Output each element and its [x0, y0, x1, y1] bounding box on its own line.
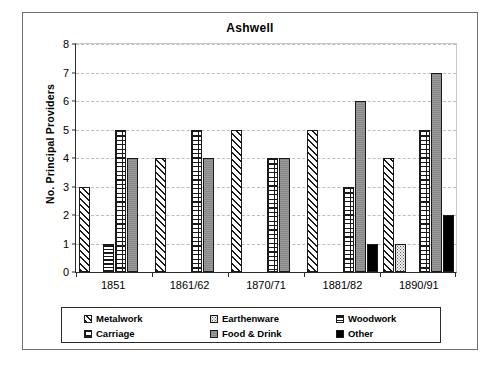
legend-item-woodwork[interactable]: Woodwork: [314, 311, 440, 326]
bar-food-drink-1881-82[interactable]: [355, 101, 366, 272]
y-tick-label: 1: [63, 238, 69, 250]
bar-food-drink-1851[interactable]: [127, 158, 138, 272]
bar-carriage-1890-91[interactable]: [419, 130, 430, 273]
bar-slot: [419, 44, 430, 272]
y-tick-label: 8: [63, 38, 69, 50]
bar-metalwork-1861-62[interactable]: [155, 158, 166, 272]
bar-slot: [343, 44, 354, 272]
y-tick-label: 6: [63, 95, 69, 107]
bar-slot: [231, 44, 242, 272]
x-axis-labels: 18511861/621870/711881/821890/91: [75, 279, 457, 291]
bar-slot: [155, 44, 166, 272]
bar-slot: [167, 44, 178, 272]
bar-slot: [443, 44, 454, 272]
bar-slot: [215, 44, 226, 272]
bar-carriage-1881-82[interactable]: [343, 187, 354, 273]
bar-slot: [127, 44, 138, 272]
y-tick-label: 5: [63, 124, 69, 136]
bar-metalwork-1870-71[interactable]: [231, 130, 242, 273]
x-tick-mark: [380, 272, 381, 277]
bar-food-drink-1861-62[interactable]: [203, 158, 214, 272]
bar-group-1870-71: [228, 44, 304, 272]
legend-label: Other: [348, 328, 373, 339]
bar-slot: [255, 44, 266, 272]
legend-swatch-icon: [84, 330, 92, 338]
bar-group-1890-91: [380, 44, 456, 272]
x-axis-label-1890-91: 1890/91: [381, 279, 457, 291]
x-axis-label-1881-82: 1881/82: [304, 279, 380, 291]
bar-slot: [243, 44, 254, 272]
bar-slot: [79, 44, 90, 272]
legend-swatch-icon: [210, 315, 218, 323]
bar-slot: [431, 44, 442, 272]
legend-label: Woodwork: [348, 313, 396, 324]
bar-group-1861-62: [152, 44, 228, 272]
legend-item-carriage[interactable]: Carriage: [62, 326, 188, 341]
bar-slot: [331, 44, 342, 272]
bar-carriage-1851[interactable]: [115, 130, 126, 273]
chart-legend: MetalworkEarthenwareWoodworkCarriageFood…: [61, 307, 441, 343]
legend-label: Metalwork: [96, 313, 142, 324]
x-axis-label-1861-62: 1861/62: [151, 279, 227, 291]
legend-item-metalwork[interactable]: Metalwork: [62, 311, 188, 326]
bar-slot: [319, 44, 330, 272]
bar-woodwork-1851[interactable]: [103, 244, 114, 273]
bar-food-drink-1890-91[interactable]: [431, 73, 442, 273]
bar-other-1890-91[interactable]: [443, 215, 454, 272]
bar-metalwork-1881-82[interactable]: [307, 130, 318, 273]
bar-other-1881-82[interactable]: [367, 244, 378, 273]
bar-slot: [407, 44, 418, 272]
legend-swatch-icon: [84, 315, 92, 323]
plot-wrapper: 012345678: [75, 43, 457, 273]
bar-metalwork-1890-91[interactable]: [383, 158, 394, 272]
bar-slot: [291, 44, 302, 272]
chart-title: Ashwell: [23, 21, 477, 35]
bars-layer: [76, 44, 456, 272]
x-tick-mark-end: [455, 272, 456, 277]
x-axis-label-1870-71: 1870/71: [228, 279, 304, 291]
legend-label: Food & Drink: [222, 328, 282, 339]
bar-slot: [367, 44, 378, 272]
y-tick-label: 4: [63, 152, 69, 164]
bar-metalwork-1851[interactable]: [79, 187, 90, 273]
chart-frame: Ashwell No. Principal Providers 01234567…: [22, 12, 478, 350]
bar-slot: [395, 44, 406, 272]
legend-item-food-drink[interactable]: Food & Drink: [188, 326, 314, 341]
x-tick-mark: [228, 272, 229, 277]
y-tick-label: 7: [63, 67, 69, 79]
plot-area: 012345678: [75, 43, 457, 273]
bar-group-1851: [76, 44, 152, 272]
y-tick-label: 0: [63, 266, 69, 278]
y-tick-label: 2: [63, 209, 69, 221]
x-tick-mark: [152, 272, 153, 277]
bar-slot: [191, 44, 202, 272]
y-tick-label: 3: [63, 181, 69, 193]
legend-item-other[interactable]: Other: [314, 326, 440, 341]
legend-swatch-icon: [210, 330, 218, 338]
x-tick-mark: [76, 272, 77, 277]
bar-slot: [279, 44, 290, 272]
bar-slot: [383, 44, 394, 272]
bar-slot: [179, 44, 190, 272]
legend-label: Earthenware: [222, 313, 279, 324]
bar-carriage-1870-71[interactable]: [267, 158, 278, 272]
bar-group-1881-82: [304, 44, 380, 272]
bar-slot: [139, 44, 150, 272]
bar-slot: [91, 44, 102, 272]
bar-slot: [307, 44, 318, 272]
x-tick-mark: [304, 272, 305, 277]
legend-swatch-icon: [336, 330, 344, 338]
bar-slot: [203, 44, 214, 272]
legend-label: Carriage: [96, 328, 135, 339]
x-axis-label-1851: 1851: [75, 279, 151, 291]
y-axis-title: No. Principal Providers: [44, 54, 56, 234]
legend-item-earthenware[interactable]: Earthenware: [188, 311, 314, 326]
bar-slot: [267, 44, 278, 272]
legend-swatch-icon: [336, 315, 344, 323]
bar-slot: [115, 44, 126, 272]
bar-food-drink-1870-71[interactable]: [279, 158, 290, 272]
bar-slot: [103, 44, 114, 272]
bar-carriage-1861-62[interactable]: [191, 130, 202, 273]
bar-earthenware-1890-91[interactable]: [395, 244, 406, 273]
bar-slot: [355, 44, 366, 272]
